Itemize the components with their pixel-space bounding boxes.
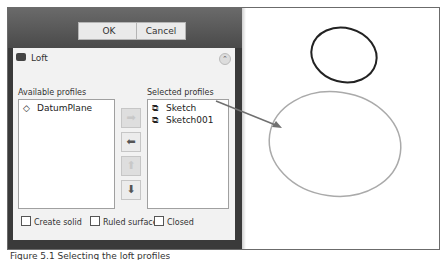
callout-arrow [8, 8, 439, 249]
figure-caption: Figure 5.1 Selecting the loft profiles [10, 251, 170, 260]
screenshot-frame: OK Cancel Loft ⌃ Available profiles ◇Dat… [7, 7, 440, 250]
